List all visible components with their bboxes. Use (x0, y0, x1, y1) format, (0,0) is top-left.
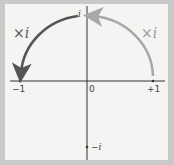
arc-arrow-i-to-neg1 (21, 16, 78, 73)
label-zero: 0 (89, 84, 95, 94)
times-i-label-right: ×i (141, 25, 157, 41)
label-i: i (78, 9, 81, 19)
label-neg-one: −1 (12, 84, 25, 94)
times-i-label-left: ×i (13, 25, 29, 41)
label-neg-i: −i (91, 142, 101, 152)
label-pos-one: +1 (147, 84, 160, 94)
